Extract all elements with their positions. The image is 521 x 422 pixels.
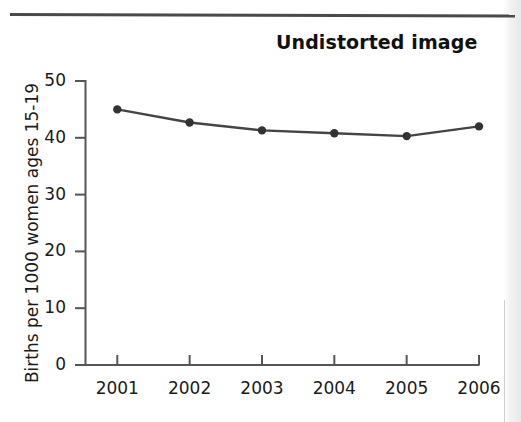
x-tick-label: 2002 [159, 378, 221, 398]
data-point-marker [258, 126, 266, 134]
y-tick-label: 20 [32, 240, 66, 260]
y-tick-label: 10 [32, 297, 66, 317]
y-tick-label: 40 [32, 127, 66, 147]
data-point-marker [330, 129, 338, 137]
data-point-marker [475, 122, 483, 130]
data-point-marker [185, 118, 193, 126]
x-tick-label: 2003 [231, 378, 293, 398]
data-point-marker [403, 132, 411, 140]
data-series [117, 109, 479, 136]
y-tick-label: 30 [32, 184, 66, 204]
line-chart-plot [0, 0, 521, 422]
chart-page: Undistorted image Births per 1000 women … [0, 0, 521, 422]
data-point-markers [113, 105, 483, 140]
x-tick-label: 2006 [448, 378, 510, 398]
x-tick-label: 2005 [376, 378, 438, 398]
y-tick-label: 50 [32, 70, 66, 90]
x-tick-label: 2001 [86, 378, 148, 398]
data-point-marker [113, 105, 121, 113]
y-tick-label: 0 [32, 354, 66, 374]
chart-axes [85, 80, 480, 366]
y-axis-ticks [75, 81, 85, 365]
x-tick-label: 2004 [303, 378, 365, 398]
series-line [117, 109, 479, 136]
x-axis-ticks [117, 355, 479, 365]
